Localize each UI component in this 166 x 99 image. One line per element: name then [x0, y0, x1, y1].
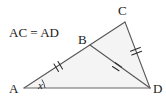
- vertex-label-a: A: [9, 81, 19, 96]
- geometry-figure: A B C D x AC = AD: [0, 0, 166, 99]
- given-statement-text: AC = AD: [9, 25, 59, 40]
- vertex-label-d: D: [153, 81, 162, 96]
- angle-label-x: x: [37, 79, 43, 91]
- vertex-label-c: C: [118, 3, 127, 18]
- geometry-diagram-canvas: A B C D x AC = AD: [0, 0, 166, 99]
- vertex-label-b: B: [78, 32, 87, 47]
